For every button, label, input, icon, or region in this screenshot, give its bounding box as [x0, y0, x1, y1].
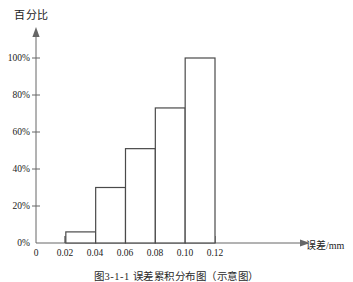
figure-container: 百分比 误差/mm 100% 80% 60% 40% 20% 0% 0 0.02… — [0, 0, 353, 282]
bar-2 — [126, 149, 156, 243]
y-axis-arrow-icon — [32, 27, 39, 37]
x-axis-arrow-icon — [300, 239, 310, 246]
figure-caption: 图3-1-1 误差累积分布图（示意图） — [0, 268, 353, 282]
chart-plot-area — [0, 0, 353, 282]
bar-3 — [155, 108, 185, 243]
bar-0 — [66, 232, 96, 243]
bar-4 — [185, 58, 215, 243]
bars-group — [66, 58, 215, 243]
bar-1 — [96, 188, 126, 244]
